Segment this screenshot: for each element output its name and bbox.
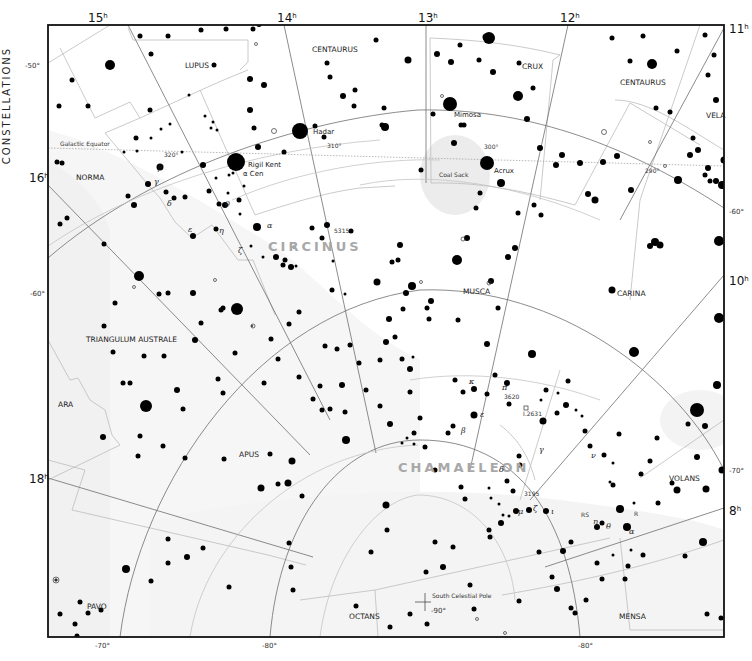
star-hadar	[292, 123, 308, 139]
hour-label: 18h	[29, 472, 49, 486]
declination-label: -70°	[729, 467, 744, 475]
hour-label: 8h	[729, 504, 741, 518]
constellation-name: VOLANS	[669, 474, 700, 483]
greek-letter: η	[593, 517, 598, 526]
declination-label: -50°	[25, 62, 40, 70]
star-name: Acrux	[494, 167, 514, 175]
annotation: 3620	[504, 393, 519, 400]
greek-letter: β	[157, 163, 163, 172]
greek-letter: γ	[154, 177, 159, 186]
constellation-name: CARINA	[617, 289, 646, 298]
annotation: 320°	[164, 151, 178, 158]
annotation: I.2631	[523, 410, 542, 417]
constellation-name: ARA	[58, 400, 74, 409]
hour-label: 14h	[277, 11, 297, 25]
hour-label: 16h	[29, 171, 49, 185]
greek-letter: ν	[591, 451, 596, 460]
constellation-name: LUPUS	[185, 61, 209, 70]
highlight-constellation-name: CIRCINUS	[268, 239, 362, 254]
constellation-name: OCTANS	[349, 612, 380, 621]
greek-letter: ι	[551, 507, 554, 516]
greek-letter: δ	[499, 465, 504, 474]
constellation-name: MUSCA	[463, 287, 491, 296]
annotation: 310°	[327, 142, 341, 149]
declination-label: -60°	[30, 290, 45, 298]
star-name: Hadar	[313, 128, 334, 136]
constellation-name: CRUX	[522, 62, 543, 71]
declination-label: -80°	[262, 642, 277, 650]
annotation: Galactic Equator	[60, 140, 110, 148]
constellation-name: TRIANGULUM AUSTRALE	[85, 335, 177, 344]
greek-letter: δ	[167, 199, 172, 208]
star-rigil-kent	[227, 153, 245, 171]
greek-letter: γ	[539, 445, 544, 454]
constellation-name: PAVO	[87, 602, 107, 611]
declination-label: -60°	[729, 208, 744, 216]
constellation-name: APUS	[239, 450, 259, 459]
greek-letter: ζ	[533, 504, 538, 513]
annotation: South Celestial Pole	[432, 592, 492, 599]
constellation-name: NORMA	[76, 173, 105, 182]
greek-letter: ε	[188, 225, 192, 234]
annotation: 5315	[334, 227, 349, 234]
greek-letter: α	[267, 221, 273, 230]
star-chart: 15h14h13h12h11h16h10h18h8h -50°-60°-60°-…	[0, 0, 752, 661]
highlight-constellation-name: CHAMAELEON	[398, 460, 529, 475]
side-title: CONSTELLATIONS	[1, 46, 12, 166]
annotation: 300°	[484, 143, 498, 150]
constellation-name: CENTAURUS	[620, 78, 666, 87]
star-name: Mimosa	[454, 111, 481, 119]
greek-letter: μ	[518, 507, 523, 516]
hour-label: 13h	[418, 11, 438, 25]
declination-label: -70°	[95, 642, 110, 650]
star-acrux	[480, 156, 494, 170]
declination-label: -80°	[578, 642, 593, 650]
annotation: 3195	[524, 490, 539, 497]
declination-label: -90°	[431, 607, 446, 615]
constellation-name: CENTAURUS	[312, 45, 358, 54]
greek-letter: π	[501, 383, 508, 392]
milky-way-tint	[48, 25, 740, 637]
hour-label: 11h	[729, 22, 749, 36]
annotation: Coal Sack	[439, 171, 469, 178]
greek-letter: ζ	[238, 246, 243, 255]
annotation: 290°	[645, 167, 659, 174]
greek-letter: θ	[225, 200, 230, 209]
hour-label: 10h	[729, 274, 749, 288]
greek-letter: β	[460, 426, 466, 435]
greek-letter: κ	[468, 377, 475, 386]
star-name: Rigil Kent	[248, 161, 281, 169]
annotation: RS	[581, 511, 589, 518]
star-name: α Cen	[243, 170, 263, 178]
greek-letter: η	[219, 226, 224, 235]
hour-label: 12h	[560, 11, 580, 25]
star-mimosa	[443, 97, 457, 111]
annotation: R	[634, 510, 638, 517]
hour-label: 15h	[88, 11, 108, 25]
greek-letter: θ	[606, 522, 611, 531]
greek-letter: ε	[480, 410, 484, 419]
constellation-name: VELA	[706, 111, 726, 120]
greek-letter: α	[629, 527, 635, 536]
constellation-name: MENSA	[619, 612, 647, 621]
